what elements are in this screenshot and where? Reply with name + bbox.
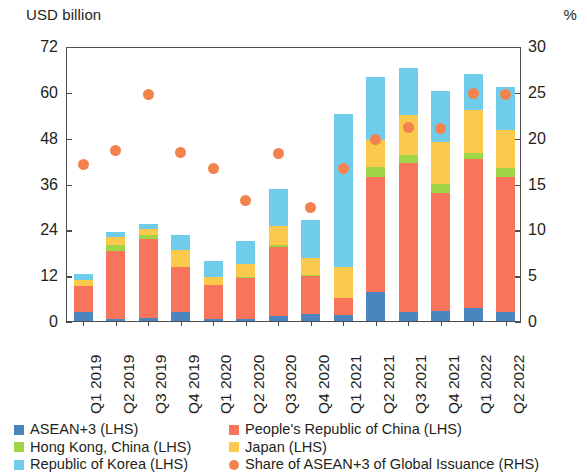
bar-segment [106,245,125,251]
bar-segment [301,275,320,276]
bar-segment [399,155,418,162]
x-label-q1-2020: Q1 2020 [218,355,234,414]
bar-segment [236,277,255,278]
legend-item[interactable]: People's Republic of China (LHS) [229,421,587,438]
left-axis-tick-labels: 0122436486072 [0,47,58,322]
left-tick-mark [66,185,72,186]
right-tick-label-20: 20 [528,131,578,147]
bar-segment [301,220,320,259]
bar-q2-2022 [496,87,515,322]
bar-segment [366,77,385,140]
bar-segment [204,261,223,278]
bar-q1-2021 [334,114,353,321]
plot-inner [67,48,520,321]
x-label-q1-2021: Q1 2021 [348,355,364,414]
bar-segment [74,274,93,280]
bar-segment [236,241,255,264]
bar-segment [301,276,320,315]
right-tick-label-25: 25 [528,85,578,101]
bar-segment [74,280,93,286]
left-tick-label-36: 36 [8,177,58,193]
bar-q4-2020 [301,220,320,321]
legend-label: Share of ASEAN+3 of Global Issuance (RHS… [245,457,539,472]
bar-segment [269,245,288,247]
legend-item[interactable]: Japan (LHS) [229,439,587,456]
bar-segment [269,189,288,226]
bar-segment [334,114,353,267]
bar-segment [334,298,353,315]
left-tick-label-24: 24 [8,222,58,238]
right-tick-mark [515,185,521,186]
bar-segment [399,163,418,313]
bar-segment [431,142,450,184]
left-tick-mark [66,93,72,94]
bar-q2-2019 [106,232,125,321]
legend-label: Republic of Korea (LHS) [30,457,188,472]
bar-segment [106,251,125,319]
bar-segment [399,68,418,115]
legend-column-left: ASEAN+3 (LHS)Hong Kong, China (LHS)Repub… [14,421,229,473]
bar-segment [301,314,320,321]
scatter-dot-q1-2019 [78,159,89,170]
bar-segment [139,235,158,239]
x-label-q1-2022: Q1 2022 [478,355,494,414]
bar-q2-2020 [236,241,255,321]
bar-segment [366,177,385,292]
x-label-q3-2021: Q3 2021 [413,355,429,414]
bar-segment [236,278,255,318]
right-tick-label-10: 10 [528,222,578,238]
bar-segment [171,250,190,268]
scatter-dot-q1-2021 [338,163,349,174]
scatter-dot-q1-2020 [208,163,219,174]
scatter-dot-q3-2019 [143,89,154,100]
bar-q2-2021 [366,77,385,321]
bar-q4-2019 [171,235,190,321]
bar-segment [139,229,158,235]
bar-segment [399,115,418,155]
bar-segment [204,277,223,285]
scatter-dot-q2-2020 [240,195,251,206]
x-label-q3-2020: Q3 2020 [283,355,299,414]
bar-segment [334,267,353,298]
bar-segment [269,226,288,245]
bar-q3-2020 [269,189,288,321]
scatter-dot-q4-2019 [175,147,186,158]
legend-label: Japan (LHS) [245,440,327,455]
legend-column-right: People's Republic of China (LHS)Japan (L… [229,421,587,473]
legend-item[interactable]: Hong Kong, China (LHS) [14,439,229,456]
bar-segment [464,308,483,321]
legend-item[interactable]: ASEAN+3 (LHS) [14,421,229,438]
bar-q1-2020 [204,261,223,321]
legend-item[interactable]: Share of ASEAN+3 of Global Issuance (RHS… [229,456,587,473]
bar-segment [106,232,125,237]
bar-q1-2022 [464,74,483,321]
right-tick-label-15: 15 [528,177,578,193]
right-tick-mark [515,139,521,140]
left-tick-label-12: 12 [8,268,58,284]
left-tick-label-60: 60 [8,85,58,101]
bar-segment [106,237,125,245]
x-label-q3-2019: Q3 2019 [153,355,169,414]
bar-segment [139,239,158,318]
bar-segment [496,312,515,321]
bar-segment [171,267,190,312]
bar-segment [236,264,255,277]
right-axis-title: % [564,6,577,23]
x-label-q4-2020: Q4 2020 [316,355,332,414]
right-tick-mark [515,276,521,277]
bar-segment [269,247,288,316]
legend-square-icon [14,442,24,452]
plot-area [66,47,521,322]
bar-segment [74,286,93,312]
x-label-q2-2022: Q2 2022 [511,355,527,414]
left-tick-mark [66,322,72,323]
x-axis-labels: Q1 2019Q2 2019Q3 2019Q4 2019Q1 2020Q2 20… [66,326,521,418]
right-tick-mark [515,93,521,94]
legend-label: Hong Kong, China (LHS) [30,440,191,455]
bar-q3-2021 [399,68,418,321]
bar-segment [431,184,450,193]
legend-item[interactable]: Republic of Korea (LHS) [14,456,229,473]
scatter-dot-q2-2019 [110,145,121,156]
x-label-q4-2019: Q4 2019 [186,355,202,414]
bar-segment [496,168,515,177]
